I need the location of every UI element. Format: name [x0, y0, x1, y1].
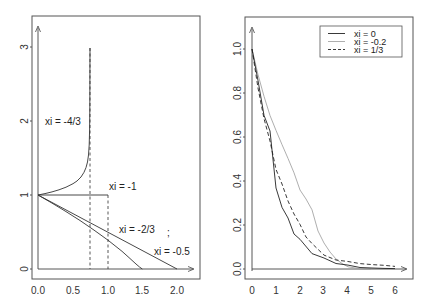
right-x-tick-4: 4 [344, 285, 350, 296]
right-y-tick-0: 0.0 [232, 262, 243, 276]
label-xi-m43: xi = -4/3 [45, 116, 81, 127]
right-x-tick-0: 0 [249, 285, 255, 296]
right-x-tick-2: 2 [297, 285, 303, 296]
right-x-tick-1: 1 [273, 285, 279, 296]
right-y-tick-4: 0.8 [232, 86, 243, 100]
label-xi-m1: xi = -1 [109, 181, 137, 192]
left-y-tick-3: 3 [19, 44, 30, 50]
left-y-tick-2: 2 [19, 118, 30, 124]
curve-xi-13 [252, 49, 395, 266]
label-xi-m23: xi = -2/3 [119, 224, 155, 235]
left-x-tick-0: 0.0 [31, 285, 45, 296]
left-y-tick-0: 0 [19, 266, 30, 272]
left-y-tick-1: 1 [19, 192, 30, 198]
figure: 0 1 2 3 0.0 0.5 1.0 1.5 2.0 xi = -4/3 xi… [0, 0, 433, 306]
right-y-tick-2: 0.4 [232, 174, 243, 188]
left-plot-frame [32, 16, 200, 279]
curve-xi-m02 [252, 49, 371, 269]
right-x-tick-5: 5 [368, 285, 374, 296]
right-plot: 0.0 0.2 0.4 0.6 0.8 1.0 0 1 2 3 4 5 6 [232, 17, 413, 296]
legend: xi = 0 xi = -0.2 xi = 1/3 [320, 26, 402, 57]
stray-mark: ; [167, 227, 170, 238]
label-xi-m05: xi = -0.5 [154, 246, 190, 257]
right-y-ticks: 0.0 0.2 0.4 0.6 0.8 1.0 [232, 42, 245, 276]
right-x-tick-6: 6 [392, 285, 398, 296]
curve-xi-m05 [38, 195, 177, 269]
left-x-ticks: 0.0 0.5 1.0 1.5 2.0 [31, 285, 184, 296]
left-x-tick-1: 0.5 [66, 285, 80, 296]
right-x-ticks: 0 1 2 3 4 5 6 [249, 285, 398, 296]
right-y-tick-3: 0.6 [232, 130, 243, 144]
left-x-tick-4: 2.0 [170, 285, 184, 296]
left-x-tick-2: 1.0 [101, 285, 115, 296]
left-x-tick-3: 1.5 [135, 285, 149, 296]
right-y-tick-5: 1.0 [232, 42, 243, 56]
left-plot: 0 1 2 3 0.0 0.5 1.0 1.5 2.0 xi = -4/3 xi… [19, 16, 200, 296]
right-y-tick-1: 0.2 [232, 218, 243, 232]
left-y-ticks: 0 1 2 3 [19, 44, 32, 272]
right-x-tick-3: 3 [320, 285, 326, 296]
legend-label-xi-13: xi = 1/3 [354, 45, 383, 55]
